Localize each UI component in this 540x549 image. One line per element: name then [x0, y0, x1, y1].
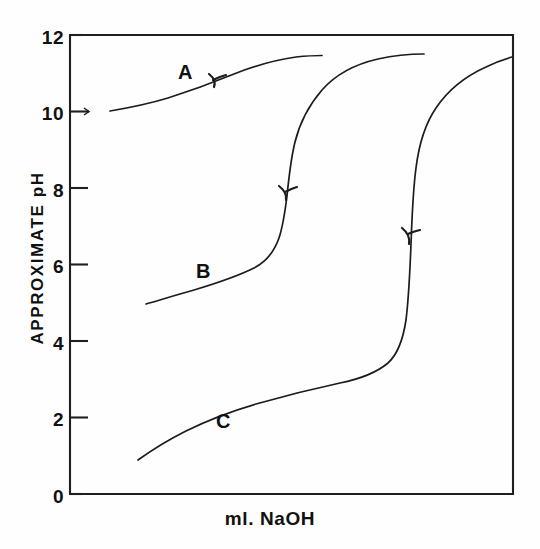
- curve-c: [138, 57, 512, 460]
- curve-a: [110, 56, 322, 112]
- curve-label-c: C: [216, 411, 230, 431]
- plot-canvas: [0, 0, 540, 549]
- titration-figure: 0 2 4 6 8 10 12 APPROXIMATE pH ml. NaOH …: [0, 0, 540, 549]
- y-tick-label-0: 0: [32, 487, 64, 506]
- axis-box: [70, 35, 513, 494]
- y-tick-label-12: 12: [22, 28, 64, 47]
- x-axis-title: ml. NaOH: [0, 508, 540, 530]
- curve-a-path: [110, 56, 322, 112]
- plot-frame: [70, 35, 513, 494]
- y-axis-ticks: [70, 35, 89, 494]
- y-axis-title: APPROXIMATE pH: [28, 158, 48, 358]
- y-tick-label-2: 2: [32, 410, 64, 429]
- curve-label-a: A: [178, 62, 192, 82]
- curve-c-path: [138, 57, 512, 460]
- y-tick-label-10: 10: [22, 104, 64, 123]
- curve-label-b: B: [196, 261, 210, 281]
